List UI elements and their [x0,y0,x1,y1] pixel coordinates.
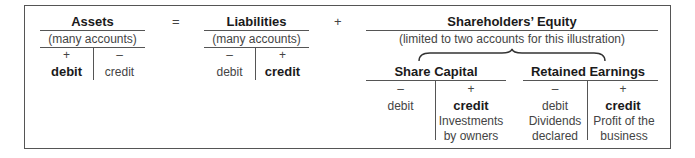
assets-title-underline [40,30,145,31]
plus-sign: + [334,14,342,29]
assets-credit-sign: – [94,48,145,62]
equity-title: Shareholders’ Equity [366,14,658,29]
share-capital-credit-sign: + [436,82,506,96]
liabilities-credit-label: credit [256,64,309,79]
retained-earnings-t-bar [523,80,658,81]
retained-earnings-debit-desc-line1: Dividends [518,114,592,129]
share-capital-credit-label: credit [436,98,506,113]
share-capital-debit-label: debit [366,99,435,113]
assets-title: Assets [40,14,145,29]
share-capital-credit-desc-line2: by owners [436,129,506,144]
retained-earnings-credit-sign: + [588,82,658,96]
retained-earnings-credit-desc-line2: business [588,129,660,144]
retained-earnings-credit-label: credit [588,98,658,113]
liabilities-debit-label: debit [204,65,255,79]
share-capital-title: Share Capital [366,64,506,79]
retained-earnings-credit-desc-line1: Profit of the [588,114,660,129]
curly-brace-icon [418,48,606,62]
assets-debit-label: debit [40,64,93,79]
share-capital-credit-desc-line1: Investments [436,114,506,129]
liabilities-subtitle: (many accounts) [204,32,309,46]
assets-debit-sign: + [40,48,93,62]
share-capital-debit-sign: – [366,82,435,96]
assets-credit-label: credit [94,65,145,79]
share-capital-t-bar [366,80,506,81]
liabilities-title: Liabilities [204,14,309,29]
retained-earnings-debit-sign: – [523,82,587,96]
equity-subtitle: (limited to two accounts for this illust… [366,32,658,46]
equals-sign: = [172,14,180,29]
retained-earnings-debit-label: debit [523,99,587,113]
liabilities-title-underline [204,30,309,31]
liabilities-debit-sign: – [204,48,255,62]
retained-earnings-title: Retained Earnings [518,64,658,79]
liabilities-credit-sign: + [256,48,309,62]
equity-title-underline [366,30,658,31]
assets-subtitle: (many accounts) [40,32,145,46]
retained-earnings-debit-desc-line2: declared [518,129,592,144]
